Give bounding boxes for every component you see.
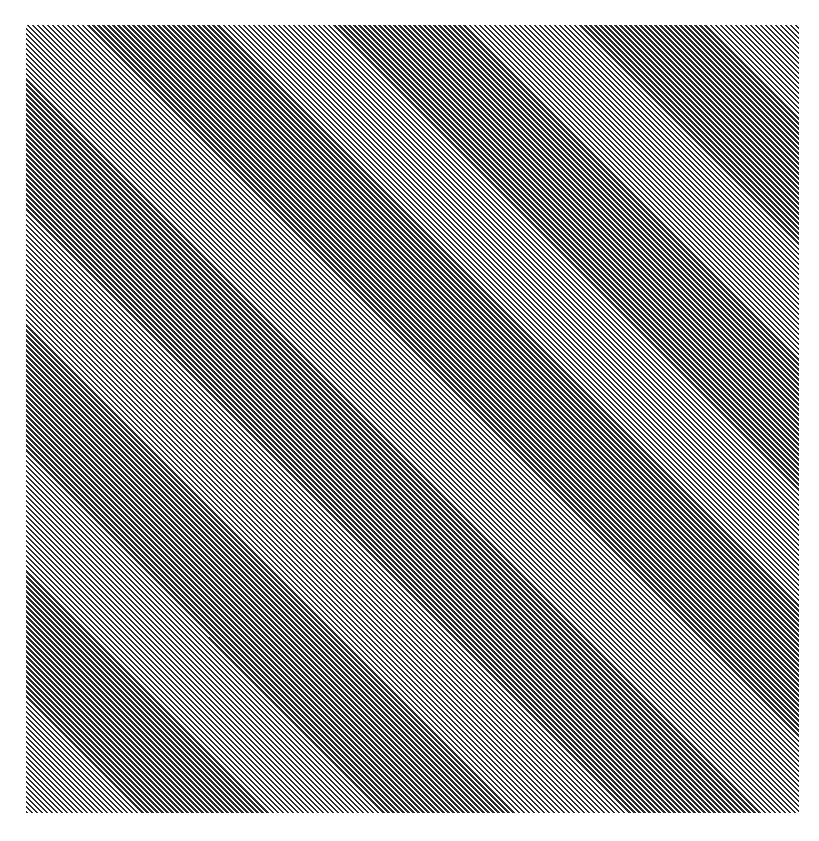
diagonal-stripe-pattern [26, 25, 799, 813]
